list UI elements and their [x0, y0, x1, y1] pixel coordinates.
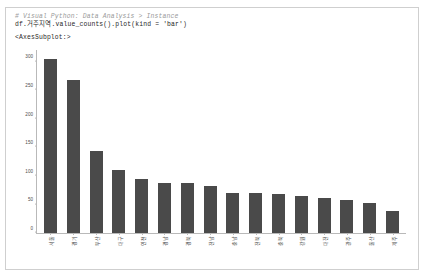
x-tick-label: 전북 — [252, 236, 259, 246]
y-tick-label: 250 — [25, 83, 37, 88]
bar — [90, 151, 103, 233]
x-tick-label: 전남 — [207, 236, 214, 246]
bar-slot: 전남 — [199, 50, 222, 233]
bar-slot: 대구 — [107, 50, 130, 233]
x-tick-label: 경북 — [184, 236, 191, 246]
x-tick-label: 울산 — [366, 236, 373, 246]
cell-output-text: <AxesSubplot:> — [15, 34, 414, 42]
bar — [226, 193, 239, 233]
x-tick-label: 강원 — [298, 236, 305, 246]
matplotlib-figure: 050100150200250300 서울경기부산대구인천경남경북전남충남전북충… — [10, 44, 414, 266]
bar-slot: 부산 — [85, 50, 108, 233]
bar-slot: 전북 — [244, 50, 267, 233]
bar — [67, 80, 80, 233]
bar — [295, 196, 308, 233]
bar — [44, 59, 57, 233]
bar — [181, 183, 194, 233]
bar-slot: 경북 — [176, 50, 199, 233]
x-tick-label: 서울 — [47, 236, 54, 246]
bar-slot: 제주 — [381, 50, 404, 233]
bar — [135, 179, 148, 233]
code-area[interactable]: # Visual Python: Data Analysis > Instanc… — [15, 13, 414, 42]
bar-slot: 강원 — [290, 50, 313, 233]
bar-slot: 인천 — [130, 50, 153, 233]
bar — [249, 193, 262, 233]
notebook-cell: # Visual Python: Data Analysis > Instanc… — [5, 7, 419, 270]
x-tick-label: 인천 — [138, 236, 145, 246]
x-tick-label: 대전 — [321, 236, 328, 246]
x-tick-label: 제주 — [389, 236, 396, 246]
bar-slot: 경기 — [62, 50, 85, 233]
x-tick-label: 부산 — [93, 236, 100, 246]
y-tick-label: 100 — [25, 168, 37, 173]
bar-slot: 광주 — [336, 50, 359, 233]
x-tick-label: 광주 — [343, 236, 350, 246]
bar — [363, 203, 376, 233]
bar — [158, 183, 171, 233]
bar-slot: 경남 — [153, 50, 176, 233]
bar — [204, 186, 217, 233]
x-tick-label: 대구 — [115, 236, 122, 246]
x-tick-label: 경기 — [70, 236, 77, 246]
bar-slot: 대전 — [313, 50, 336, 233]
bar — [112, 170, 125, 233]
bar-slot: 충북 — [267, 50, 290, 233]
bar-series: 서울경기부산대구인천경남경북전남충남전북충북강원대전광주울산제주 — [37, 50, 406, 233]
y-tick-label: 300 — [25, 54, 37, 59]
bar — [386, 211, 399, 233]
y-tick-label: 150 — [25, 140, 37, 145]
bar-slot: 서울 — [39, 50, 62, 233]
bar — [272, 194, 285, 233]
x-tick-label: 충남 — [229, 236, 236, 246]
plot-axes: 050100150200250300 서울경기부산대구인천경남경북전남충남전북충… — [36, 50, 406, 234]
y-tick-label: 50 — [28, 197, 37, 202]
x-tick-label: 충북 — [275, 236, 282, 246]
code-statement-line: df.거주지역.value_counts().plot(kind = 'bar'… — [15, 21, 414, 29]
code-comment-line: # Visual Python: Data Analysis > Instanc… — [15, 13, 414, 21]
x-tick-label: 경남 — [161, 236, 168, 246]
bar — [340, 200, 353, 233]
y-tick-label: 200 — [25, 111, 37, 116]
bar — [318, 198, 331, 233]
bar-slot: 울산 — [358, 50, 381, 233]
bar-slot: 충남 — [222, 50, 245, 233]
